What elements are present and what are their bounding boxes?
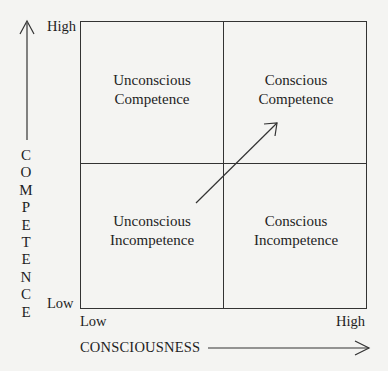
arrows-layer xyxy=(0,0,388,371)
y-axis-arrow-icon xyxy=(20,21,34,140)
progression-arrow-icon xyxy=(196,123,277,203)
x-axis-arrow-icon xyxy=(208,341,369,355)
